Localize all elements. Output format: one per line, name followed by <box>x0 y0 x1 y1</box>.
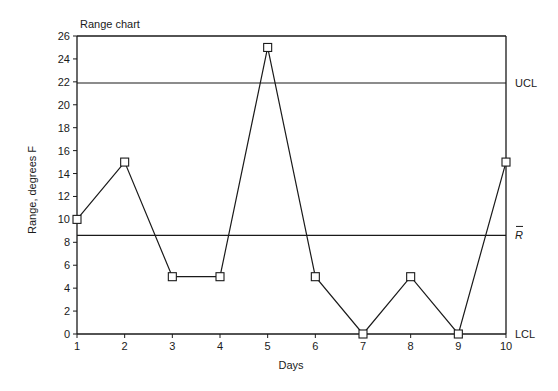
data-point-marker <box>121 158 129 166</box>
series-line <box>77 47 506 334</box>
y-tick-label: 4 <box>64 282 70 294</box>
y-tick-label: 16 <box>58 145 70 157</box>
data-point-marker <box>359 330 367 338</box>
data-point-marker <box>73 215 81 223</box>
x-tick-label: 7 <box>360 340 366 352</box>
y-tick-label: 26 <box>58 30 70 42</box>
data-point-marker <box>264 43 272 51</box>
x-tick-label: 9 <box>455 340 461 352</box>
x-tick-label: 3 <box>169 340 175 352</box>
y-tick-label: 14 <box>58 168 70 180</box>
y-tick-label: 24 <box>58 53 70 65</box>
x-tick-label: 8 <box>408 340 414 352</box>
y-tick-label: 20 <box>58 99 70 111</box>
y-tick-label: 2 <box>64 305 70 317</box>
y-axis-label: Range, degrees F <box>26 146 38 234</box>
x-axis-label: Days <box>278 359 304 371</box>
data-point-marker <box>454 330 462 338</box>
data-point-marker <box>168 273 176 281</box>
y-tick-label: 12 <box>58 190 70 202</box>
y-tick-label: 22 <box>58 76 70 88</box>
y-tick-label: 6 <box>64 259 70 271</box>
x-tick-label: 4 <box>217 340 223 352</box>
x-tick-label: 1 <box>74 340 80 352</box>
data-point-marker <box>407 273 415 281</box>
reference-line-label: UCL <box>515 77 537 89</box>
data-point-marker <box>216 273 224 281</box>
range-control-chart: Range chart 0246810121416182022242612345… <box>0 0 558 391</box>
reference-line-label: LCL <box>515 328 535 340</box>
y-tick-label: 0 <box>64 328 70 340</box>
range-series <box>73 43 510 338</box>
y-tick-label: 18 <box>58 122 70 134</box>
reference-line-label: R <box>515 229 523 241</box>
x-tick-label: 6 <box>312 340 318 352</box>
plot-axes: 0246810121416182022242612345678910 <box>58 30 512 352</box>
y-tick-label: 8 <box>64 236 70 248</box>
data-point-marker <box>311 273 319 281</box>
y-tick-label: 10 <box>58 213 70 225</box>
x-tick-label: 10 <box>500 340 512 352</box>
x-tick-label: 2 <box>122 340 128 352</box>
chart-title: Range chart <box>80 18 140 30</box>
x-tick-label: 5 <box>265 340 271 352</box>
data-point-marker <box>502 158 510 166</box>
